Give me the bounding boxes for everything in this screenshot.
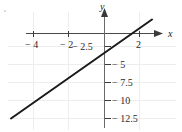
y-tick-label-neg2p5: − 2.5 (72, 42, 93, 52)
x-axis-arrowhead (154, 30, 163, 37)
plot-canvas (0, 0, 182, 132)
y-tick-label-neg12p5: − 12.5 (112, 114, 138, 124)
grid-lines (8, 12, 176, 130)
graph-figure: − 4 − 2 2 − 2.5 − 5 − 7.5 − 10 − 12.5 x … (0, 0, 182, 132)
y-tick-label-neg10: − 10 (112, 96, 130, 106)
data-line-series (11, 20, 152, 119)
x-tick-label-2: 2 (136, 40, 141, 50)
y-axis-ticks (105, 47, 111, 119)
y-tick-label-neg5: − 5 (112, 60, 125, 70)
y-axis (101, 8, 108, 128)
x-axis (26, 30, 163, 37)
y-axis-name: y (100, 2, 104, 12)
x-axis-name: x (168, 29, 172, 39)
x-tick-label-neg4: − 4 (25, 40, 38, 50)
y-tick-label-neg7p5: − 7.5 (112, 78, 133, 88)
